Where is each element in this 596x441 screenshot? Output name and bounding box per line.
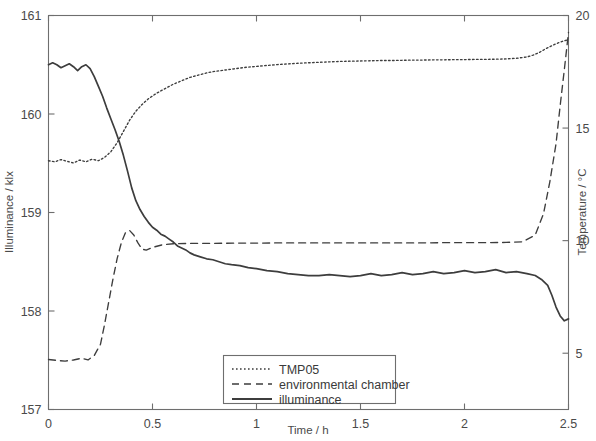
x-axis-title: Time / h [287,424,328,436]
y-tick-label: 161 [21,9,42,23]
legend-label: environmental chamber [279,378,410,392]
y-tick-label: 160 [21,108,42,122]
x-tick-label: 1 [253,417,260,431]
x-tick-label: 2.5 [560,417,577,431]
figure-container: 00.511.522.5 157158159160161 5101520 Tim… [0,0,596,441]
x-tick-label: 0.5 [144,417,161,431]
x-tick-label: 1.5 [352,417,369,431]
data-series-layer [49,32,569,361]
y2-tick-label: 5 [576,347,583,361]
y2-axis-title: Temperature / °C [576,168,588,255]
series-tmp05 [49,40,569,163]
y-tick-label: 157 [21,403,42,417]
y2-tick-label: 15 [576,122,590,136]
line-chart: 00.511.522.5 157158159160161 5101520 Tim… [0,0,596,441]
series-illuminance [49,63,569,321]
y-axis-ticks: 157158159160161 [21,9,55,417]
y2-tick-label: 20 [576,9,590,23]
chart-legend: TMP05environmental chamberilluminance [224,356,410,407]
plot-area-frame [49,16,569,410]
y-axis-title: Illuminance / klx [3,171,15,253]
x-tick-label: 0 [45,417,52,431]
y-tick-label: 158 [21,305,42,319]
legend-label: TMP05 [279,363,319,377]
legend-label: illuminance [279,393,342,407]
y-tick-label: 159 [21,206,42,220]
series-environmental-chamber [49,32,569,361]
x-tick-label: 2 [461,417,468,431]
